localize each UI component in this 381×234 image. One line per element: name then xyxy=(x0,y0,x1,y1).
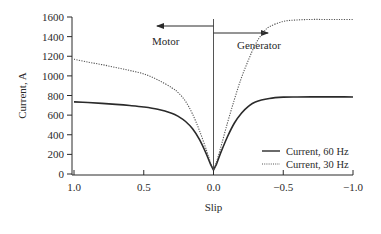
y-tick-label: 200 xyxy=(48,148,65,160)
chart: 02004006008001000120014001600 1.00.50.0−… xyxy=(0,0,381,234)
y-tick-label: 1000 xyxy=(42,70,65,82)
y-tick-label: 1400 xyxy=(42,31,65,43)
x-ticks: 1.00.50.0−0.5−1.0 xyxy=(67,170,363,193)
y-tick-label: 400 xyxy=(48,129,65,141)
y-tick-label: 600 xyxy=(48,109,65,121)
x-tick-label: 0.5 xyxy=(137,181,151,193)
motor-label: Motor xyxy=(152,35,180,47)
x-tick-label: 0.0 xyxy=(207,181,221,193)
legend: Current, 60 Hz Current, 30 Hz xyxy=(262,146,349,170)
legend-label-60hz: Current, 60 Hz xyxy=(286,146,349,157)
x-tick-label: 1.0 xyxy=(67,181,81,193)
y-axis-label: Current, A xyxy=(16,72,28,118)
y-tick-label: 1200 xyxy=(42,50,65,62)
y-ticks: 02004006008001000120014001600 xyxy=(42,11,72,180)
x-tick-label: −0.5 xyxy=(273,181,293,193)
x-tick-label: −1.0 xyxy=(343,181,363,193)
legend-label-30hz: Current, 30 Hz xyxy=(286,159,349,170)
x-axis-label: Slip xyxy=(205,201,223,213)
generator-label: Generator xyxy=(237,39,281,51)
y-tick-label: 0 xyxy=(59,168,65,180)
y-tick-label: 800 xyxy=(48,90,65,102)
y-tick-label: 1600 xyxy=(42,11,65,23)
